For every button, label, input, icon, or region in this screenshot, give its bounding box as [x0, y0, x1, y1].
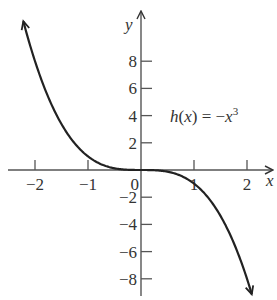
function-label: h(x) = −x3	[170, 105, 239, 126]
y-tick-label: 6	[129, 79, 138, 98]
function-name: h	[170, 107, 179, 126]
y-tick-label: −2	[119, 188, 137, 207]
x-axis-label: x	[265, 171, 274, 190]
y-tick-label: 8	[129, 52, 138, 71]
x-tick-label: −2	[26, 175, 44, 194]
y-axis-label: y	[123, 15, 133, 34]
y-tick-label: 2	[129, 134, 138, 153]
x-ticks: −2−1012	[26, 160, 251, 194]
x-tick-label: 2	[243, 175, 252, 194]
y-tick-label: −6	[119, 243, 137, 262]
y-tick-label: −8	[119, 270, 137, 289]
cubic-curve	[23, 21, 251, 294]
function-exponent: 3	[233, 105, 239, 117]
y-tick-label: 4	[129, 107, 138, 126]
y-tick-label: −4	[119, 215, 138, 234]
function-equals: = −	[197, 107, 225, 126]
x-tick-label: −1	[79, 175, 97, 194]
function-graph: −2−1012 −8−6−4−22468 x y h(x) = −x3	[0, 0, 277, 300]
